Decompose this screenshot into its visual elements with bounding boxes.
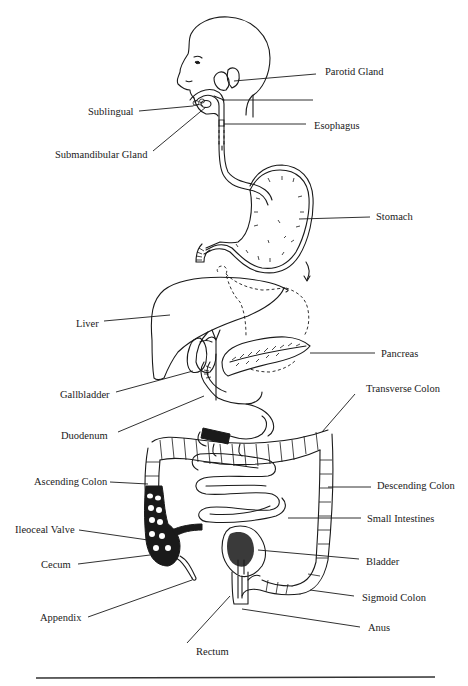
label-ileocecal-valve: Ileoceal Valve bbox=[15, 524, 75, 536]
label-duodenum: Duodenum bbox=[61, 430, 108, 442]
label-esophagus: Esophagus bbox=[314, 120, 360, 132]
label-parotid-gland: Parotid Gland bbox=[325, 66, 384, 78]
cecum-organ bbox=[145, 486, 203, 580]
label-liver: Liver bbox=[76, 318, 99, 330]
anatomy-illustration bbox=[0, 0, 468, 686]
label-small-intestines: Small Intestines bbox=[367, 513, 434, 525]
bladder-organ bbox=[222, 526, 265, 577]
label-appendix: Appendix bbox=[40, 612, 81, 624]
small-intestines-organ bbox=[192, 416, 285, 523]
label-anus: Anus bbox=[368, 622, 390, 634]
label-bladder: Bladder bbox=[366, 556, 399, 568]
label-descending-colon: Descending Colon bbox=[377, 480, 455, 492]
digestive-system-diagram: Parotid Gland Sublingual Esophagus Subma… bbox=[0, 0, 468, 686]
label-submandibular-gland: Submandibular Gland bbox=[55, 149, 147, 161]
label-rectum: Rectum bbox=[196, 646, 229, 658]
bottom-rule bbox=[36, 677, 435, 678]
label-cecum: Cecum bbox=[41, 559, 71, 571]
label-gallbladder: Gallbladder bbox=[60, 389, 110, 401]
label-sigmoid-colon: Sigmoid Colon bbox=[362, 592, 426, 604]
label-sublingual: Sublingual bbox=[88, 106, 134, 118]
esophagus-tube bbox=[219, 120, 272, 205]
label-pancreas: Pancreas bbox=[381, 348, 418, 360]
label-ascending-colon: Ascending Colon bbox=[34, 476, 107, 488]
pancreas-organ bbox=[222, 337, 310, 376]
stomach-organ bbox=[196, 165, 313, 281]
label-transverse-colon: Transverse Colon bbox=[366, 383, 440, 395]
label-stomach: Stomach bbox=[376, 211, 413, 223]
